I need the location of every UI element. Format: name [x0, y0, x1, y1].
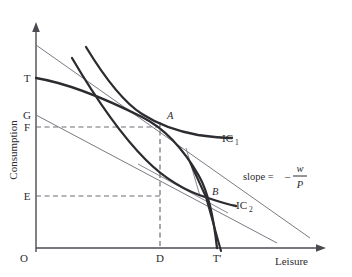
axes-group	[32, 22, 326, 252]
ic1-label-group: IC 1	[222, 132, 239, 147]
x-tick-label-d: D	[156, 252, 164, 264]
ic2-label-subscript: 2	[249, 205, 253, 214]
y-axis-arrowhead	[32, 22, 40, 32]
y-tick-label-f: F	[24, 121, 30, 133]
slope-annotation-group: slope = – w P	[243, 163, 307, 190]
y-axis-label: Consumption	[7, 120, 19, 180]
ic2-curve	[72, 58, 236, 206]
ic1-curve	[86, 47, 232, 138]
y-tick-label-t: T	[24, 72, 31, 84]
slope-numerator-w: w	[296, 163, 303, 174]
point-label-b: B	[212, 186, 219, 197]
ic1-label: IC	[222, 132, 233, 144]
ic2-label-group: IC 2	[236, 199, 253, 214]
budget-lines-group	[36, 45, 310, 243]
ic1-label-subscript: 1	[235, 138, 239, 147]
x-axis-label: Leisure	[275, 255, 308, 267]
y-tick-label-e: E	[24, 190, 31, 202]
x-tick-label-t-prime: T'	[213, 252, 222, 264]
ic2-label: IC	[236, 199, 247, 211]
budget-line-inner	[36, 115, 277, 243]
indifference-curve-figure: Consumption Leisure O T G F E D T' A B I…	[0, 0, 352, 277]
slope-denominator-p: P	[296, 179, 304, 190]
slope-minus-sign: –	[284, 171, 291, 182]
x-axis-arrowhead	[316, 244, 326, 252]
tangent-segments-group	[138, 148, 228, 213]
y-tick-label-g: G	[23, 109, 31, 121]
point-label-a: A	[166, 110, 174, 121]
diagram-canvas: Consumption Leisure O T G F E D T' A B I…	[0, 0, 352, 277]
dashed-guides-group	[36, 122, 160, 248]
origin-label: O	[20, 252, 28, 264]
slope-label-text: slope =	[243, 171, 274, 182]
